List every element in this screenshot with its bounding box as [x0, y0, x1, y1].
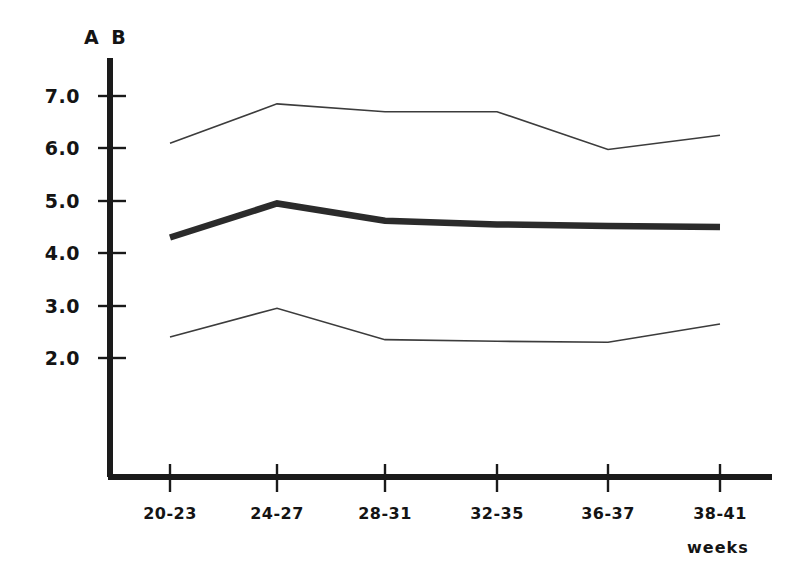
x-tick-label-5: 38-41: [675, 504, 765, 523]
x-tick-label-2: 28-31: [340, 504, 430, 523]
y-tick-label-3: 3.0: [28, 295, 80, 317]
x-tick-label-3: 32-35: [452, 504, 542, 523]
series-line-mean: [170, 203, 720, 237]
y-tick-label-4: 4.0: [28, 242, 80, 264]
x-tick-label-4: 36-37: [563, 504, 653, 523]
plot-area: [0, 0, 808, 581]
series-line-upper-bound: [170, 104, 720, 150]
y-tick-label-5: 5.0: [28, 190, 80, 212]
y-tick-label-2: 2.0: [28, 347, 80, 369]
x-axis-title: weeks: [687, 538, 749, 557]
y-tick-label-6: 6.0: [28, 137, 80, 159]
x-tick-label-1: 24-27: [232, 504, 322, 523]
x-tick-label-0: 20-23: [125, 504, 215, 523]
series-line-lower-bound: [170, 308, 720, 342]
data-series-group: [170, 104, 720, 342]
y-tick-label-7: 7.0: [28, 85, 80, 107]
chart-container: A B 7.0 6.0 5.0 4.0 3.0 2.0: [0, 0, 808, 581]
